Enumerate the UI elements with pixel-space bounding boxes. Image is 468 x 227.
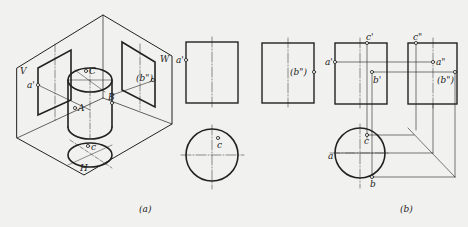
label-b-upper: B [107, 92, 115, 102]
label-a-upper: A [77, 103, 85, 113]
caption-a: (a) [139, 204, 152, 214]
label-c-b: c [364, 136, 369, 146]
label-plane-v: V [20, 66, 28, 76]
label-c-lower-a: c [91, 142, 96, 152]
label-b-dprime-mid: (b") [290, 67, 307, 77]
label-c-prime: c' [366, 32, 374, 42]
figure-canvas: V W H a' C A B (b") c (a) a' (b") c c' c… [0, 0, 468, 227]
label-a-prime-b: a' [325, 57, 333, 67]
label-c-mid: c [217, 140, 222, 150]
label-c-upper: C [89, 66, 96, 76]
label-c-dprime: c" [413, 32, 422, 42]
label-b-dprime-a: (b") [136, 73, 153, 83]
panel-mid-drawing [181, 37, 316, 189]
label-a-b: a [328, 151, 333, 161]
projection-drawing: V W H a' C A B (b") c (a) a' (b") c c' c… [0, 0, 468, 227]
label-plane-w: W [160, 54, 170, 64]
label-b-b: b [370, 179, 376, 189]
label-b-prime: b' [373, 75, 381, 85]
label-b-dprime-b: (b") [437, 75, 454, 85]
label-a-prime-mid: a' [176, 55, 184, 65]
caption-b: (b) [400, 204, 413, 214]
label-a-dprime-b: a" [436, 57, 446, 67]
label-a-prime-a: a' [27, 80, 35, 90]
label-plane-h: H [79, 163, 88, 173]
